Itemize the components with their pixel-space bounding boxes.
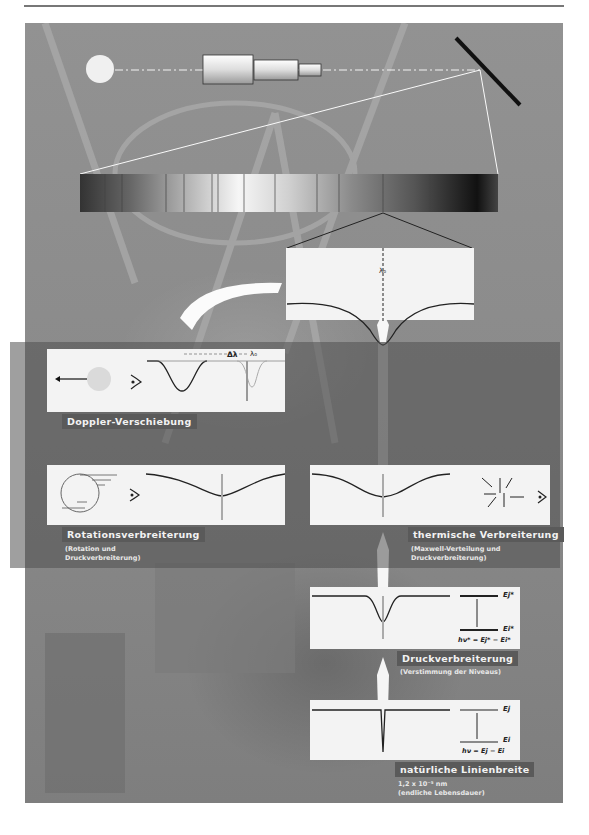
line-profile-card [286,248,474,320]
level-lower-pressure: Ei* [503,625,514,633]
thermal-diagram [310,465,552,527]
lambda0-label-top: λ₀ [379,267,386,275]
rotation-subtitle-2: Druckverbreiterung) [65,554,140,563]
thermal-subtitle-1: (Maxwell-Verteilung und [411,545,500,554]
eye-icon [131,375,141,389]
thermal-subtitle-2: Druckverbreiterung) [411,554,486,563]
level-upper-natural: Ej [503,705,510,713]
doppler-title: Doppler-Verschiebung [62,414,197,429]
equation-pressure: hν* = Ej* − Ei* [458,636,511,644]
lambda0-label-doppler: λ₀ [250,350,257,358]
level-lower-natural: Ei [503,736,510,744]
equation-natural: hν = Ej − Ei [462,747,504,755]
thermal-title: thermische Verbreiterung [408,527,564,542]
mirror-icon [456,38,520,105]
delta-lambda-label: Δλ [227,350,238,359]
doppler-diagram [47,349,287,419]
rotation-title: Rotationsverbreiterung [62,527,205,542]
rotation-subtitle-1: (Rotation und [65,545,116,554]
pressure-subtitle: (Verstimmung der Niveaus) [400,668,501,677]
rotation-diagram [47,465,287,527]
natural-title: natürliche Linienbreite [395,762,534,777]
star-icon [86,55,114,83]
pressure-title: Druckverbreiterung [397,651,518,666]
natural-subtitle-2: (endliche Lebensdauer) [398,789,485,798]
eye-icon [130,489,139,501]
telescope-schematic [0,0,589,230]
natural-subtitle-1: 1,2 x 10⁻⁵ nm [398,780,447,789]
eye-icon [538,491,546,503]
level-upper-pressure: Ej* [503,591,514,599]
telescope-icon [203,55,321,84]
spectrum-bar [80,174,498,212]
